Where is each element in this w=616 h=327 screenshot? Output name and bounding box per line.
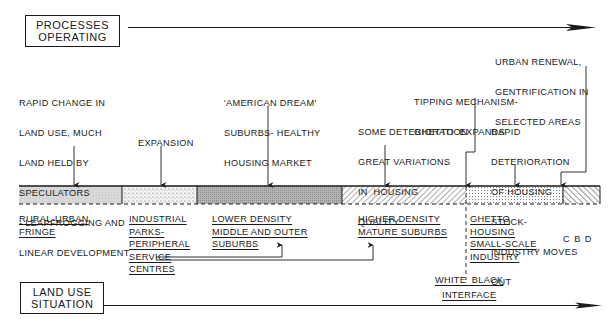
text-line: SMALL-SCALE — [470, 238, 537, 251]
text-line: EXPANSION — [138, 138, 194, 148]
process-expansion: EXPANSION — [138, 118, 194, 158]
process-urban-renewal: URBAN RENEWAL, GENTRIFICATION IN SELECTE… — [495, 37, 589, 137]
land-use-situation-header: LAND USE SITUATION — [20, 282, 104, 314]
text-line: INDUSTRIAL — [129, 213, 190, 226]
zone-cbd: C B D — [563, 214, 593, 254]
text-line: FRINGE — [19, 226, 89, 239]
text-line: GHETTO — [470, 213, 537, 226]
processes-operating-header: PROCESSES OPERATING — [25, 15, 120, 47]
text-line: MATURE SUBURBS — [358, 226, 447, 239]
white-black-interface-label: WHITE BLACK INTERFACE — [435, 274, 503, 301]
text-line: GREAT VARIATIONS — [358, 157, 468, 167]
text-line: 'AMERICAN DREAM' — [224, 98, 321, 108]
text-line: URBAN RENEWAL, — [495, 57, 589, 67]
text-line: HOUSING — [470, 226, 537, 239]
text-line: INDUSTRY — [470, 251, 537, 264]
text-line: HOUSING MARKET — [224, 158, 321, 168]
text-line: SERVICE — [129, 251, 190, 264]
zone-industrial-parks: INDUSTRIAL PARKS- PERIPHERAL SERVICE CEN… — [129, 213, 190, 276]
process-rapid-change: RAPID CHANGE IN LAND USE, MUCH LAND HELD… — [19, 78, 130, 268]
text-line: INTERFACE — [435, 289, 503, 302]
text-line: PERIPHERAL — [129, 238, 190, 251]
text-line: OUT — [491, 277, 578, 287]
zone-ghetto: GHETTO HOUSING SMALL-SCALE INDUSTRY — [470, 213, 537, 263]
text-line: RURAL-URBAN — [19, 213, 89, 226]
text-line: RAPID CHANGE IN — [19, 98, 130, 108]
text-line: SPECULATORS — [19, 188, 130, 198]
header-line: OPERATING — [36, 31, 109, 43]
text-line: SUBURBS- HEALTHY — [224, 128, 321, 138]
text-line: OF HOUSING — [491, 187, 578, 197]
text-line: MIDDLE AND OUTER — [212, 226, 308, 239]
text-line: SUBURBS — [212, 238, 308, 251]
text-line: IN HOUSING — [358, 187, 468, 197]
process-american-dream: 'AMERICAN DREAM' SUBURBS- HEALTHY HOUSIN… — [224, 78, 321, 178]
text-line: C B D — [563, 234, 593, 244]
text-line: LAND USE, MUCH — [19, 128, 130, 138]
text-line: WHITE BLACK — [435, 274, 503, 287]
text-line: LAND HELD BY — [19, 158, 130, 168]
text-line: PARKS- — [129, 226, 190, 239]
header-line: LAND USE — [31, 286, 93, 298]
header-line: PROCESSES — [36, 19, 109, 31]
text-line: LINEAR DEVELOPMENT — [19, 248, 130, 258]
text-line: HIGHER DENSITY — [358, 213, 447, 226]
text-line: CENTRES — [129, 263, 190, 276]
text-line: DETERIORATION — [491, 157, 578, 167]
zone-lower-density: LOWER DENSITY MIDDLE AND OUTER SUBURBS — [212, 213, 308, 251]
text-line: GENTRIFICATION IN — [495, 87, 589, 97]
header-line: SITUATION — [31, 298, 93, 310]
text-line: LOWER DENSITY — [212, 213, 308, 226]
zone-rural-urban-fringe: RURAL-URBAN FRINGE — [19, 213, 89, 238]
text-line: SELECTED AREAS — [495, 117, 589, 127]
zone-higher-density: HIGHER DENSITY MATURE SUBURBS — [358, 213, 447, 238]
